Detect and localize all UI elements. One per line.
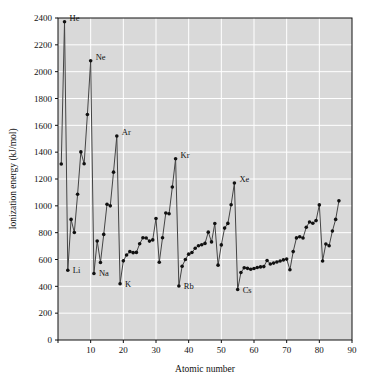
data-point bbox=[242, 266, 246, 270]
data-point bbox=[151, 238, 155, 242]
x-tick-label: 60 bbox=[250, 345, 260, 355]
y-tick-label: 400 bbox=[39, 282, 53, 292]
element-label-li: Li bbox=[73, 265, 81, 275]
data-point bbox=[272, 261, 276, 265]
y-tick-label: 1400 bbox=[34, 147, 53, 157]
x-tick-label: 80 bbox=[315, 345, 325, 355]
data-point bbox=[301, 236, 305, 240]
data-point bbox=[177, 284, 181, 288]
element-label-ar: Ar bbox=[122, 127, 131, 137]
data-point bbox=[105, 202, 109, 206]
x-tick-label: 70 bbox=[282, 345, 292, 355]
element-label-cs: Cs bbox=[243, 285, 252, 295]
data-point bbox=[210, 240, 214, 244]
data-point bbox=[206, 230, 210, 234]
element-label-ne: Ne bbox=[96, 52, 106, 62]
y-tick-label: 1600 bbox=[34, 121, 53, 131]
data-point bbox=[291, 250, 295, 254]
data-point bbox=[193, 246, 197, 250]
data-point bbox=[69, 218, 73, 222]
data-point bbox=[92, 272, 96, 276]
data-point bbox=[262, 265, 266, 269]
data-point bbox=[226, 222, 230, 226]
data-point bbox=[66, 268, 70, 272]
y-tick-label: 0 bbox=[48, 335, 53, 345]
y-tick-label: 2400 bbox=[34, 13, 53, 23]
data-point bbox=[249, 267, 253, 271]
element-label-na: Na bbox=[99, 268, 109, 278]
y-tick-label: 2000 bbox=[34, 67, 53, 77]
data-point bbox=[311, 221, 315, 225]
data-point bbox=[255, 266, 259, 270]
data-point bbox=[122, 259, 126, 263]
x-tick-label: 90 bbox=[348, 345, 358, 355]
data-point bbox=[131, 251, 135, 255]
element-label-rb: Rb bbox=[184, 281, 194, 291]
data-point bbox=[304, 226, 308, 230]
x-tick-label: 10 bbox=[86, 345, 96, 355]
data-point bbox=[118, 282, 122, 286]
data-point bbox=[269, 262, 273, 266]
data-point bbox=[220, 243, 224, 247]
data-point bbox=[246, 267, 250, 271]
data-point bbox=[197, 244, 201, 248]
data-point bbox=[154, 217, 158, 221]
y-tick-label: 2200 bbox=[34, 40, 53, 50]
element-label-k: K bbox=[125, 279, 132, 289]
data-point bbox=[298, 235, 302, 239]
data-point bbox=[102, 233, 106, 237]
data-point bbox=[112, 170, 116, 174]
y-tick-label: 200 bbox=[39, 308, 53, 318]
data-point bbox=[314, 219, 318, 223]
y-tick-label: 600 bbox=[39, 255, 53, 265]
data-point bbox=[63, 20, 67, 24]
data-point bbox=[76, 192, 80, 196]
data-point bbox=[337, 199, 341, 203]
ionization-energy-figure: 0200400600800100012001400160018002000220… bbox=[0, 0, 371, 380]
element-label-xe: Xe bbox=[239, 174, 249, 184]
data-point bbox=[203, 242, 207, 246]
x-tick-label: 50 bbox=[217, 345, 227, 355]
data-point bbox=[184, 258, 188, 262]
x-tick-label: 40 bbox=[184, 345, 194, 355]
data-point bbox=[288, 268, 292, 272]
data-point bbox=[180, 264, 184, 268]
data-point bbox=[252, 267, 256, 271]
data-point bbox=[144, 236, 148, 240]
data-point bbox=[86, 113, 90, 117]
data-point bbox=[334, 218, 338, 222]
data-point bbox=[190, 251, 194, 255]
data-point bbox=[157, 261, 161, 265]
x-tick-label: 30 bbox=[152, 345, 162, 355]
data-point bbox=[282, 258, 286, 262]
data-point bbox=[125, 253, 129, 257]
data-point bbox=[327, 244, 331, 248]
data-point bbox=[108, 204, 112, 208]
data-point bbox=[233, 181, 237, 185]
data-point bbox=[59, 162, 63, 166]
data-point bbox=[236, 288, 240, 292]
data-point bbox=[171, 185, 175, 189]
data-point bbox=[285, 257, 289, 261]
data-point bbox=[174, 157, 178, 161]
data-point bbox=[278, 259, 282, 263]
data-point bbox=[275, 260, 279, 264]
x-axis-title: Atomic number bbox=[175, 364, 236, 374]
data-point bbox=[95, 239, 99, 243]
data-point bbox=[259, 265, 263, 269]
data-point bbox=[216, 263, 220, 267]
data-point bbox=[141, 236, 145, 240]
data-point bbox=[213, 222, 217, 226]
x-tick-label: 20 bbox=[119, 345, 129, 355]
data-point bbox=[324, 242, 328, 246]
data-point bbox=[115, 134, 119, 138]
data-point bbox=[318, 203, 322, 207]
data-point bbox=[99, 261, 103, 265]
y-tick-label: 1000 bbox=[34, 201, 53, 211]
data-point bbox=[148, 239, 152, 243]
data-point bbox=[223, 226, 227, 230]
y-tick-label: 1200 bbox=[34, 174, 53, 184]
data-point bbox=[89, 59, 93, 63]
y-tick-label: 1800 bbox=[34, 94, 53, 104]
data-point bbox=[79, 150, 83, 154]
